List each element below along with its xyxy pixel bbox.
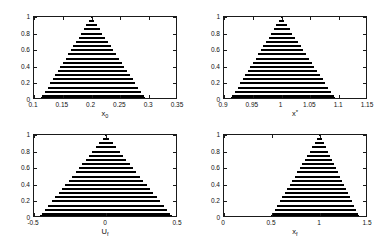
data-bar: [271, 215, 360, 217]
x-tick-label: 1.5: [362, 219, 371, 226]
x-tick-label: 1: [317, 219, 321, 226]
x-tick-label: 0: [221, 219, 225, 226]
data-bar: [315, 142, 324, 144]
data-bar: [305, 159, 332, 161]
y-tick-mark-right: [363, 152, 366, 153]
data-bar: [312, 146, 326, 148]
x-tick-mark: [272, 213, 273, 216]
x-tick-mark: [224, 213, 225, 216]
y-tick-label: 1: [199, 131, 220, 138]
y-tick-mark-right: [363, 168, 366, 169]
subplot-4-xlabel: xf: [292, 228, 297, 236]
data-bar: [275, 209, 357, 211]
y-tick-mark-right: [363, 201, 366, 202]
y-tick-label: 0.2: [199, 197, 220, 204]
x-tick-mark: [320, 213, 321, 216]
data-bar: [280, 200, 353, 202]
x-tick-label: 0.5: [266, 219, 275, 226]
subplot-4: 00.511.500.20.40.60.81xf: [0, 0, 381, 239]
y-tick-mark: [224, 168, 227, 169]
y-tick-mark-right: [363, 185, 366, 186]
data-bar: [307, 155, 330, 157]
y-tick-mark: [224, 152, 227, 153]
y-tick-label: 0: [199, 214, 220, 221]
subplot-4-axes: [223, 134, 367, 217]
y-tick-mark-right: [363, 135, 366, 136]
data-bar: [287, 188, 346, 190]
data-bar: [282, 196, 350, 198]
data-bar: [302, 163, 334, 165]
data-bar: [310, 151, 328, 153]
data-bar: [297, 171, 338, 173]
data-bar: [290, 184, 344, 186]
y-tick-label: 0.6: [199, 164, 220, 171]
y-tick-label: 0.8: [199, 147, 220, 154]
y-tick-mark: [224, 135, 227, 136]
data-bar: [292, 180, 342, 182]
data-bar: [317, 138, 322, 140]
y-tick-mark: [224, 185, 227, 186]
matlab-figure: 0.10.150.20.250.30.3500.20.40.60.81x00.9…: [0, 0, 381, 239]
y-tick-label: 0.4: [199, 180, 220, 187]
data-bar: [295, 176, 340, 178]
x-tick-mark-top: [272, 135, 273, 138]
data-bar: [277, 205, 354, 207]
y-tick-mark: [224, 201, 227, 202]
data-bar: [300, 167, 336, 169]
data-bar: [285, 192, 349, 194]
x-tick-mark-top: [320, 135, 321, 138]
